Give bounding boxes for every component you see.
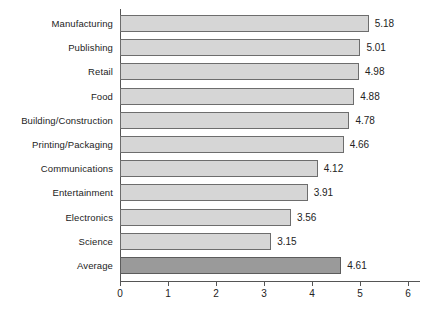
bar-chart: ManufacturingPublishingRetailFoodBuildin… [0,0,433,318]
x-axis-tick [408,282,409,286]
x-axis-tick-label: 0 [117,289,123,299]
category-label: Communications [0,164,113,174]
bar-value-label: 4.61 [347,261,366,271]
x-axis-tick [216,282,217,286]
category-label: Retail [0,67,113,77]
bar [120,209,291,226]
plot-area: 0123456 5.185.014.984.884.784.664.123.91… [120,0,433,318]
x-axis-tick [312,282,313,286]
category-label: Publishing [0,43,113,53]
bar-value-label: 4.66 [350,140,369,150]
x-axis-tick-label: 1 [165,289,171,299]
category-label: Food [0,92,113,102]
bar [120,112,349,129]
category-axis-labels: ManufacturingPublishingRetailFoodBuildin… [0,0,113,318]
category-label: Entertainment [0,188,113,198]
bar-value-label: 4.12 [324,164,343,174]
bar-value-label: 4.98 [365,67,384,77]
bar [120,184,308,201]
x-axis-tick-label: 5 [357,289,363,299]
x-axis-tick [120,282,121,286]
bar [120,160,318,177]
bar-average [120,257,341,274]
bar [120,88,354,105]
bar-value-label: 4.88 [360,92,379,102]
x-axis-tick [168,282,169,286]
category-label: Manufacturing [0,19,113,29]
bar [120,39,360,56]
x-axis-tick [360,282,361,286]
category-label: Average [0,261,113,271]
bar-value-label: 5.01 [366,43,385,53]
bar [120,15,369,32]
x-axis-tick [264,282,265,286]
bar-value-label: 4.78 [355,116,374,126]
bar [120,63,359,80]
category-label: Electronics [0,213,113,223]
bar-value-label: 5.18 [375,19,394,29]
bar-value-label: 3.15 [277,237,296,247]
category-label: Building/Construction [0,116,113,126]
category-label: Printing/Packaging [0,140,113,150]
x-axis-tick-label: 6 [405,289,411,299]
x-axis-tick-label: 2 [213,289,219,299]
category-label: Science [0,237,113,247]
x-axis-line [120,281,420,282]
x-axis-tick-label: 3 [261,289,267,299]
bar [120,136,344,153]
bar-value-label: 3.56 [297,213,316,223]
bar-value-label: 3.91 [314,188,333,198]
bar [120,233,271,250]
x-axis-tick-label: 4 [309,289,315,299]
